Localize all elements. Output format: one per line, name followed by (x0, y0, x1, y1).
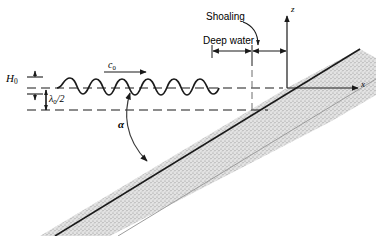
wave-height-dimension (27, 71, 43, 100)
z-axis-label: z (291, 5, 295, 14)
x-axis-label: x (361, 80, 365, 89)
wave-shoaling-diagram: H0 λ0/2 c0 α Shoaling Deep water z x (0, 0, 376, 236)
beach-surface-line (55, 49, 360, 236)
shoaling-label: Shoaling (206, 12, 245, 22)
wave-train (57, 78, 219, 95)
angle-arc-arrow (127, 93, 147, 161)
beach-slope (40, 49, 376, 236)
deep-water-label: Deep water (203, 36, 254, 46)
diagram-canvas (0, 0, 376, 236)
wave-height-label: H0 (6, 73, 18, 86)
celerity-label: c0 (108, 60, 116, 72)
beach-bottom-line (118, 79, 376, 236)
half-wavelength-label: λ0/2 (49, 94, 65, 106)
angle-label: α (118, 119, 124, 130)
